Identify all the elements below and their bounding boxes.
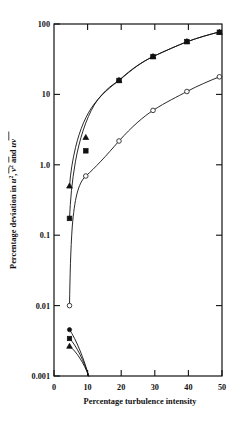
marker-circle-open	[151, 108, 156, 113]
y-axis-ticks	[54, 24, 60, 376]
curve-v2	[70, 32, 220, 219]
marker-square	[217, 30, 222, 35]
marker-circle-open	[117, 139, 122, 144]
y-axis-title-prefix: Percentage deviation in	[9, 183, 18, 269]
y-tick-labels: 100 10 1.0 0.1 0.01 0.001	[32, 20, 50, 381]
x-axis-title: Percentage turbulence intensity	[84, 397, 198, 406]
y-tick-label: 0.01	[36, 302, 50, 311]
marker-circle-open	[84, 174, 89, 179]
y-tick-label: 10	[42, 90, 50, 99]
svg-text:Percentage deviation in u2, v2: Percentage deviation in u2, v2 and uv	[8, 139, 18, 269]
plot-frame	[54, 24, 222, 376]
y-axis-title: Percentage deviation in u2, v2 and uv	[8, 132, 18, 269]
x-tick-labels: 0 10 20 30 40 50	[52, 383, 226, 392]
marker-triangle	[67, 343, 73, 348]
marker-circle-open	[217, 75, 222, 80]
marker-square	[67, 336, 71, 340]
x-tick-label: 20	[117, 383, 125, 392]
x-tick-label: 0	[52, 383, 56, 392]
marker-square	[67, 216, 72, 221]
marker-square	[117, 78, 122, 83]
marker-square	[151, 54, 156, 59]
markers-u2	[67, 29, 223, 188]
curve-uv	[70, 77, 220, 306]
marker-circle	[67, 328, 71, 332]
y-tick-label: 100	[38, 20, 50, 29]
y-axis-title-term-3: uv	[9, 139, 18, 148]
y-tick-label: 0.001	[32, 372, 50, 381]
markers-v2	[67, 30, 222, 221]
marker-circle-open	[185, 89, 190, 94]
x-tick-label: 40	[184, 383, 192, 392]
marker-circle-open	[67, 303, 72, 308]
lower-branch-curves	[70, 330, 89, 377]
marker-square	[84, 149, 89, 154]
chart-figure: 100 10 1.0 0.1 0.01 0.001 0 10 20 30 40 …	[0, 0, 244, 432]
x-axis-ticks	[54, 370, 222, 376]
marker-triangle	[67, 183, 73, 188]
data-curves	[70, 32, 220, 306]
x-tick-label: 30	[151, 383, 159, 392]
chart-svg: 100 10 1.0 0.1 0.01 0.001 0 10 20 30 40 …	[0, 0, 244, 432]
x-tick-label: 50	[218, 383, 226, 392]
x-axis-ticks-top	[88, 24, 189, 30]
x-tick-label: 10	[84, 383, 92, 392]
y-tick-label: 0.1	[40, 231, 50, 240]
y-tick-label: 1.0	[40, 161, 50, 170]
marker-triangle	[83, 134, 89, 139]
markers-lower-branch	[67, 328, 73, 349]
marker-square	[185, 39, 190, 44]
curve-lower-uv	[70, 346, 89, 376]
y-axis-ticks-right	[216, 94, 222, 305]
y-axis-title-sep-2: and	[9, 147, 18, 165]
